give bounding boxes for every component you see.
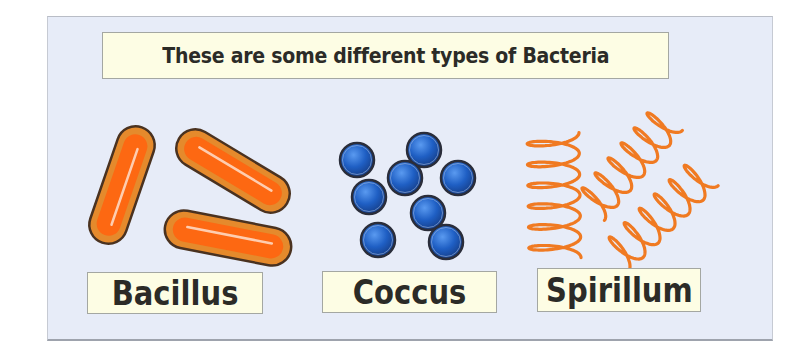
label-spirillum: Spirillum xyxy=(537,268,701,312)
coccus-group xyxy=(340,133,475,259)
label-bacillus: Bacillus xyxy=(87,272,263,314)
spirillum-cell xyxy=(609,165,718,272)
spirillum-cell xyxy=(527,133,581,258)
label-coccus: Coccus xyxy=(322,271,497,313)
spirillum-group xyxy=(527,113,718,272)
bacillus-cell xyxy=(84,121,160,249)
bacillus-cell xyxy=(169,122,297,219)
coccus-cell xyxy=(361,223,395,257)
coccus-cell xyxy=(340,143,374,177)
coccus-cell xyxy=(352,180,386,214)
bacillus-cell xyxy=(162,207,295,269)
diagram-title: These are some different types of Bacter… xyxy=(102,32,669,79)
bacillus-group xyxy=(84,121,297,269)
coccus-cell xyxy=(441,161,475,195)
coccus-cell xyxy=(388,161,422,195)
coccus-cell xyxy=(429,225,463,259)
